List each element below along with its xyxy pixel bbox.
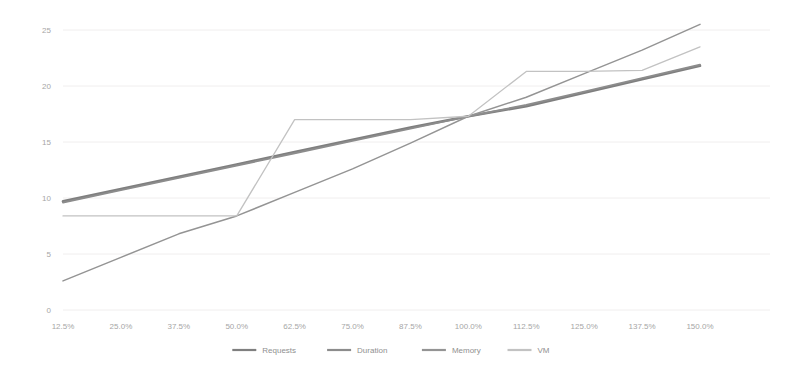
x-axis-label-9: 125.0% (571, 322, 598, 331)
x-axis-label-2: 37.5% (167, 322, 190, 331)
legend-label-duration[interactable]: Duration (357, 346, 387, 355)
legend-label-requests[interactable]: Requests (262, 346, 296, 355)
x-axis-label-7: 100.0% (455, 322, 482, 331)
x-axis-label-10: 137.5% (629, 322, 656, 331)
y-axis-label-3: 15 (42, 138, 51, 147)
legend-label-memory[interactable]: Memory (452, 346, 481, 355)
series-line-vm (63, 47, 700, 216)
legend-label-vm[interactable]: VM (538, 346, 550, 355)
line-chart: 0510152025 12.5%25.0%37.5%50.0%62.5%75.0… (0, 0, 799, 378)
x-axis-tick-labels: 12.5%25.0%37.5%50.0%62.5%75.0%87.5%100.0… (52, 322, 714, 331)
y-axis-label-2: 10 (42, 194, 51, 203)
x-axis-label-4: 62.5% (283, 322, 306, 331)
series-group (63, 24, 700, 280)
chart-canvas: 0510152025 12.5%25.0%37.5%50.0%62.5%75.0… (0, 0, 799, 378)
y-axis-label-0: 0 (47, 306, 52, 315)
x-axis-label-3: 50.0% (225, 322, 248, 331)
x-axis-label-0: 12.5% (52, 322, 75, 331)
y-axis-label-5: 25 (42, 26, 51, 35)
x-axis-label-6: 87.5% (399, 322, 422, 331)
x-axis-label-5: 75.0% (341, 322, 364, 331)
y-axis-label-4: 20 (42, 82, 51, 91)
gridlines-group (63, 30, 770, 310)
x-axis-label-11: 150.0% (686, 322, 713, 331)
chart-legend: RequestsDurationMemoryVM (232, 346, 550, 355)
x-axis-label-8: 112.5% (513, 322, 540, 331)
y-axis-label-1: 5 (47, 250, 52, 259)
x-axis-label-1: 25.0% (110, 322, 133, 331)
series-line-memory (63, 24, 700, 280)
y-axis-tick-labels: 0510152025 (42, 26, 51, 315)
